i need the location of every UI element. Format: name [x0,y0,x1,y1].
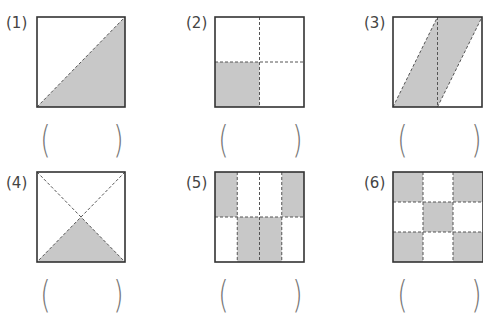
problem-4-answer-open: ( [40,275,50,313]
problem-6-figure [393,172,483,262]
problem-3-answer-open: ( [397,120,407,158]
problem-3-figure [393,17,482,107]
problem-3-answer-close: ) [471,120,481,158]
problem-2-figure [215,17,304,107]
problem-6-answer-open: ( [397,275,407,313]
problem-4-figure [37,172,125,262]
problem-5-figure [215,172,304,262]
problem-3-label: (3) [364,14,385,32]
problem-1-figure [37,17,125,107]
problem-2-answer-close: ) [292,120,302,158]
problem-4-label: (4) [6,174,27,192]
problem-5-label: (5) [186,174,207,192]
problem-1-answer-close: ) [113,120,123,158]
problem-1-label: (1) [6,14,27,32]
problem-2-label: (2) [186,14,207,32]
problem-6-label: (6) [364,174,385,192]
problem-2-answer-open: ( [218,120,228,158]
problem-4-answer-close: ) [113,275,123,313]
problem-5-answer-open: ( [218,275,228,313]
problem-1-answer-open: ( [40,120,50,158]
problem-5-answer-close: ) [292,275,302,313]
problem-6-answer-close: ) [471,275,481,313]
